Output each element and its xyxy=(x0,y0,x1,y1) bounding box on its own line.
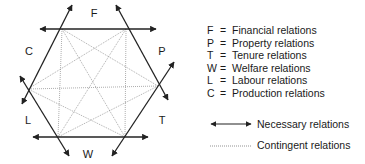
legend-label: Production relations xyxy=(232,87,325,100)
legend-necessary: Necessary relations xyxy=(208,118,349,130)
side-label: T xyxy=(159,114,166,126)
contingent-line xyxy=(58,86,158,137)
legend-equals: = xyxy=(220,87,232,100)
legend-row-financial: F=Financial relations xyxy=(207,24,325,37)
legend-contingent-label: Contingent relations xyxy=(257,139,350,151)
double-arrow-icon xyxy=(208,119,254,129)
legend-abbreviations: F=Financial relations P=Property relatio… xyxy=(207,24,325,100)
necessary-relation-arrows xyxy=(20,5,174,156)
legend-key: W xyxy=(207,62,220,75)
side-label: L xyxy=(25,114,31,126)
legend-row-welfare: W=Welfare relations xyxy=(207,62,325,75)
side-label: C xyxy=(25,45,33,57)
legend-equals: = xyxy=(220,74,232,87)
side-label: P xyxy=(158,45,165,57)
contingent-line xyxy=(28,86,158,89)
side-label: W xyxy=(83,148,94,160)
contingent-line xyxy=(62,29,158,86)
legend-label: Tenure relations xyxy=(232,49,307,62)
legend-key: F xyxy=(207,24,220,37)
legend-label: Financial relations xyxy=(232,24,317,37)
contingent-line xyxy=(125,29,126,137)
relations-hexagon-diagram: FPTWLC xyxy=(0,0,200,164)
legend-equals: = xyxy=(220,24,232,37)
contingent-line xyxy=(28,29,126,89)
legend-equals: = xyxy=(220,49,232,62)
legend-key: L xyxy=(207,74,220,87)
contingent-line xyxy=(58,29,62,137)
legend-equals: = xyxy=(220,37,232,50)
legend-key: P xyxy=(207,37,220,50)
legend-key: T xyxy=(207,49,220,62)
legend-label: Property relations xyxy=(232,37,314,50)
legend-row-production: C=Production relations xyxy=(207,87,325,100)
necessary-arrow xyxy=(112,62,174,156)
legend-row-property: P=Property relations xyxy=(207,37,325,50)
legend-equals: = xyxy=(220,62,232,75)
legend-row-labour: L=Labour relations xyxy=(207,74,325,87)
legend-row-tenure: T=Tenure relations xyxy=(207,49,325,62)
legend-label: Welfare relations xyxy=(232,62,311,75)
dotted-line-icon xyxy=(208,140,254,150)
legend-label: Labour relations xyxy=(232,74,307,87)
legend-key: C xyxy=(207,87,220,100)
legend-necessary-label: Necessary relations xyxy=(257,118,349,130)
legend-contingent: Contingent relations xyxy=(208,139,350,151)
contingent-line xyxy=(62,29,125,137)
side-label: F xyxy=(91,7,98,19)
